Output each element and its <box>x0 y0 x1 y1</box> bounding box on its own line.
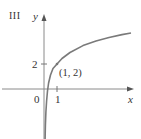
x-axis-arrow-icon <box>127 87 134 92</box>
point-label: (1, 2) <box>59 68 82 79</box>
point-1-2-marker <box>56 63 59 66</box>
origin-label: 0 <box>34 94 40 105</box>
y-tick-label-2: 2 <box>32 59 38 70</box>
panel-label: III <box>9 11 21 21</box>
y-axis-arrow-icon <box>42 14 47 21</box>
log-curve <box>45 33 131 139</box>
x-tick-label-1: 1 <box>55 94 61 105</box>
graph-panel: III y 2 (1, 2) 0 1 x <box>0 0 141 139</box>
x-axis-label: x <box>128 94 133 105</box>
y-axis-label: y <box>33 11 38 22</box>
